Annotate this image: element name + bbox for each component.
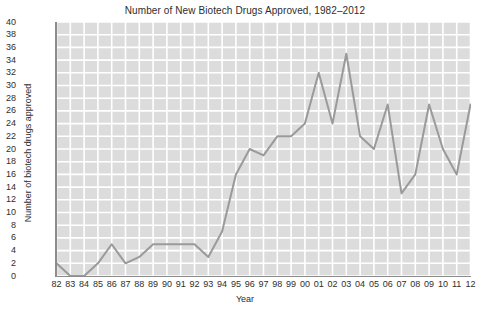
y-axis-tick-label: 16: [0, 170, 16, 179]
x-axis-line: [55, 276, 471, 278]
y-axis-label: Number of biotech drugs approved: [23, 63, 33, 243]
y-axis-tick-label: 26: [0, 106, 16, 115]
y-axis-tick-label: 2: [0, 259, 16, 268]
x-axis-label: Year: [0, 294, 490, 304]
y-axis-line: [55, 22, 57, 277]
chart-container: Number of New Biotech Drugs Approved, 19…: [0, 0, 490, 310]
y-axis-tick-label: 28: [0, 94, 16, 103]
y-axis-tick-label: 40: [0, 18, 16, 27]
y-axis-tick-label: 20: [0, 145, 16, 154]
y-axis-tick-label: 14: [0, 183, 16, 192]
y-axis-tick-label: 38: [0, 30, 16, 39]
y-axis-tick-label: 32: [0, 68, 16, 77]
y-axis-tick-label: 22: [0, 132, 16, 141]
plot-area: [56, 22, 471, 276]
series-line: [56, 22, 471, 276]
y-axis-tick-label: 4: [0, 246, 16, 255]
y-axis-tick-label: 30: [0, 81, 16, 90]
y-axis-tick-label: 12: [0, 195, 16, 204]
y-axis-tick-label: 8: [0, 221, 16, 230]
y-axis-tick-label: 10: [0, 208, 16, 217]
y-axis-tick-label: 18: [0, 157, 16, 166]
y-axis-tick-label: 0: [0, 272, 16, 281]
x-axis-tick-label: 12: [456, 280, 486, 289]
chart-title: Number of New Biotech Drugs Approved, 19…: [0, 5, 490, 16]
y-axis-tick-label: 6: [0, 233, 16, 242]
y-axis-tick-label: 36: [0, 43, 16, 52]
y-axis-tick-label: 24: [0, 119, 16, 128]
y-axis-tick-label: 34: [0, 56, 16, 65]
